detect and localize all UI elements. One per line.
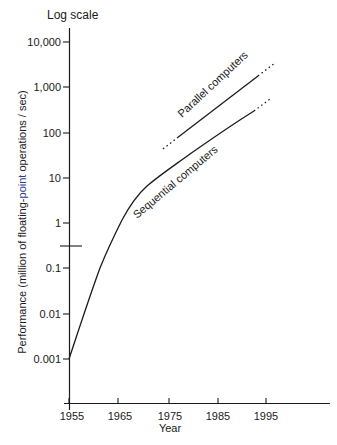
- cropped-caption-remnant: [20, 436, 320, 445]
- y-tick-label: 0.001: [33, 353, 61, 365]
- series-sequential-extrapolation: [254, 99, 270, 111]
- x-tick-label: 1985: [206, 410, 230, 422]
- y-tick-label: 0.01: [40, 308, 61, 320]
- y-axis-label-part: Performance (million of floating-: [16, 198, 28, 354]
- y-tick-label: 0.1: [46, 262, 61, 274]
- series-sequential-line: [69, 111, 254, 359]
- y-tick-label: 100: [43, 127, 61, 139]
- x-axis-label: Year: [159, 422, 182, 434]
- y-tick-label: 1,000: [33, 81, 61, 93]
- performance-chart: Log scale 10,000 1,000 100 10 1 0.1 0.01…: [0, 0, 337, 445]
- y-tick-labels: 10,000 1,000 100 10 1 0.1 0.01 0.001: [27, 36, 61, 365]
- series-parallel-label: Parallel computers: [175, 48, 250, 119]
- series-parallel-lead-in: [163, 138, 177, 149]
- y-axis-label: Performance (million of floating-point o…: [16, 90, 28, 354]
- series-sequential-label: Sequential computers: [131, 143, 221, 221]
- x-tick-label: 1955: [60, 410, 84, 422]
- x-tick-label: 1975: [158, 410, 182, 422]
- y-tick-label: 1: [55, 217, 61, 229]
- series-parallel-extrapolation: [258, 63, 275, 76]
- y-ticks: [63, 42, 69, 359]
- y-axis-label-part: operations / sec): [16, 90, 28, 174]
- chart-title: Log scale: [47, 8, 99, 22]
- y-tick-label: 10,000: [27, 36, 61, 48]
- y-tick-label: 10: [49, 172, 61, 184]
- y-axis-label-highlight: point: [16, 175, 28, 199]
- x-tick-labels: 1955 1965 1975 1985 1995: [60, 410, 278, 422]
- x-tick-label: 1965: [108, 410, 132, 422]
- x-tick-label: 1995: [254, 410, 278, 422]
